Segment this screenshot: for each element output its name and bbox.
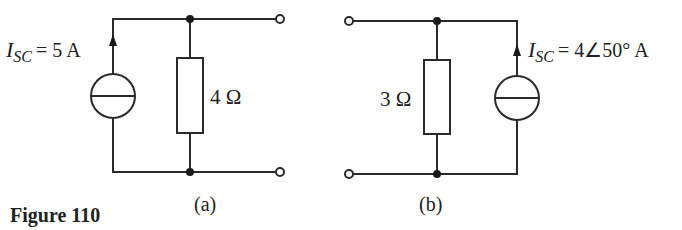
figure-110-diagram: ISC= 5 A 4 Ω (a) ISC= 4∠50° A 3 Ω (b) Fi… (0, 0, 682, 230)
resistor-label-a: 4 Ω (210, 85, 241, 109)
current-arrow-icon (109, 34, 117, 46)
terminal-icon (276, 168, 284, 176)
terminal-icon (276, 15, 284, 23)
sublabel-b: (b) (419, 193, 442, 216)
junction-node-icon (433, 170, 441, 178)
resistor-label-b: 3 Ω (380, 87, 411, 111)
junction-node-icon (433, 17, 441, 25)
resistor-icon (424, 60, 450, 134)
source-label-b: ISC= 4∠50° A (527, 37, 649, 65)
current-source-icon (495, 76, 539, 120)
source-label-a: ISC= 5 A (5, 37, 81, 65)
terminal-icon (345, 170, 353, 178)
terminal-icon (345, 17, 353, 25)
junction-node-icon (186, 168, 194, 176)
sublabel-a: (a) (194, 193, 216, 216)
circuit-a: ISC= 5 A 4 Ω (a) (5, 15, 284, 216)
current-arrow-icon (513, 44, 521, 56)
current-source-icon (91, 74, 135, 118)
figure-caption: Figure 110 (10, 204, 100, 227)
circuit-b: ISC= 4∠50° A 3 Ω (b) (345, 17, 649, 216)
junction-node-icon (186, 15, 194, 23)
resistor-icon (177, 58, 203, 133)
